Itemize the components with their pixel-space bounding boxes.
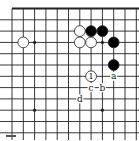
white-stone — [86, 37, 97, 48]
go-board: 1 abcd — [0, 0, 139, 140]
star-point — [33, 109, 36, 112]
white-stone — [18, 37, 29, 48]
black-stone — [97, 26, 108, 37]
white-stone — [74, 26, 85, 37]
point-label-c: c — [89, 83, 94, 93]
white-stone — [74, 37, 85, 48]
star-point — [101, 41, 104, 44]
move-number: 1 — [89, 72, 94, 81]
point-label-b: b — [100, 83, 106, 93]
point-label-d: d — [77, 94, 83, 104]
caption-mark — [6, 135, 16, 137]
black-stone — [108, 60, 119, 71]
black-stone — [86, 26, 97, 37]
grid-lines — [0, 9, 139, 141]
star-point — [33, 41, 36, 44]
point-label-a: a — [111, 71, 117, 81]
star-point — [101, 109, 104, 112]
black-stone — [108, 37, 119, 48]
